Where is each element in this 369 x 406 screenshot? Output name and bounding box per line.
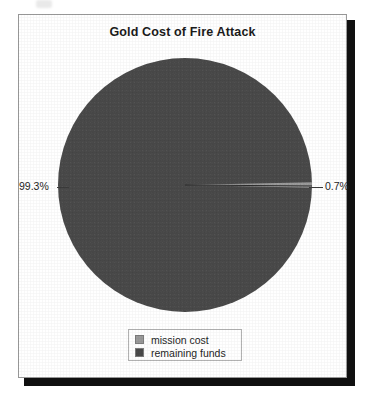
chart-plot-area: Gold Cost of Fire Attack 99.3% 0.7% miss… (0, 0, 369, 406)
leader-line-right (309, 187, 323, 188)
legend-swatch-remaining-funds (135, 348, 144, 357)
legend-swatch-mission-cost (135, 335, 144, 344)
legend-item-mission-cost: mission cost (135, 333, 241, 346)
legend-item-remaining-funds: remaining funds (135, 346, 241, 359)
leader-line-left (57, 187, 69, 188)
legend-label-remaining-funds: remaining funds (151, 347, 226, 359)
pie-label-remaining-funds-percent: 99.3% (19, 180, 49, 192)
legend-label-mission-cost: mission cost (151, 334, 209, 346)
pie-grain-overlay (58, 58, 312, 312)
pie-label-mission-cost-percent: 0.7% (325, 180, 349, 192)
chart-legend: mission cost remaining funds (128, 329, 242, 361)
